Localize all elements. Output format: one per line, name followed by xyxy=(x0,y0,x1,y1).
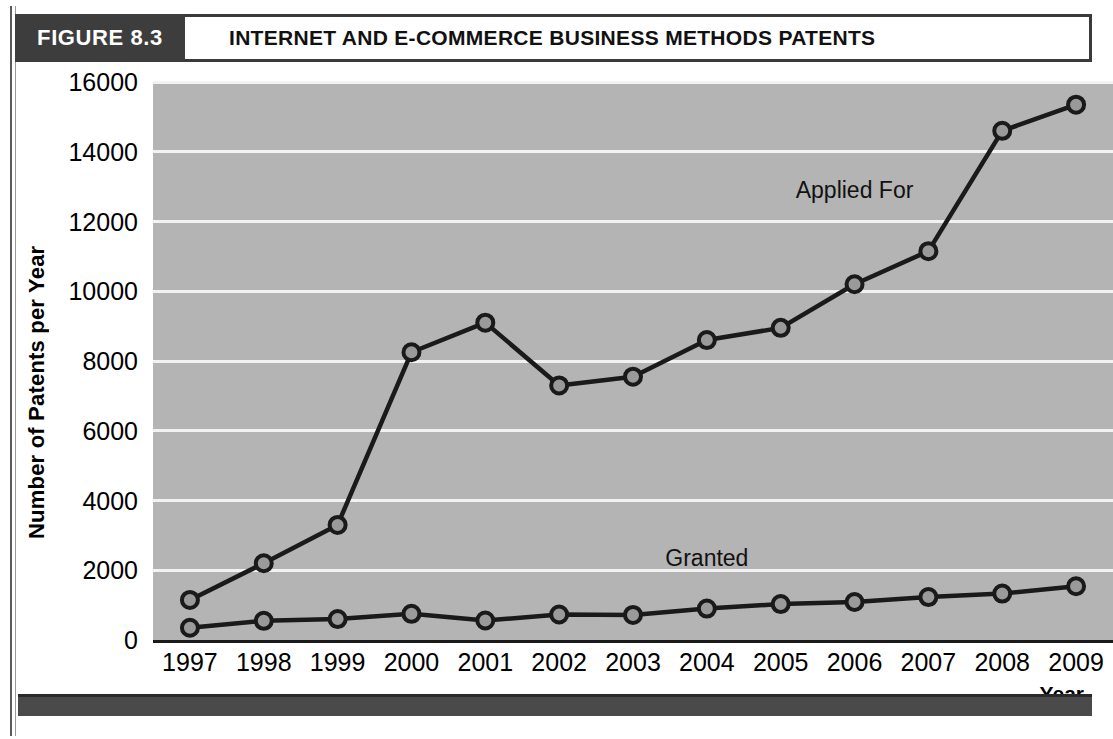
page-left-rule xyxy=(10,6,12,736)
data-point-marker xyxy=(403,606,419,622)
x-axis-tick-label: 2009 xyxy=(1048,648,1104,677)
data-point-marker xyxy=(699,601,715,617)
chart-container: Number of Patents per Year 0200040006000… xyxy=(18,62,1092,692)
footer-divider-bar xyxy=(18,697,1092,716)
figure-header: FIGURE 8.3 INTERNET AND E-COMMERCE BUSIN… xyxy=(18,14,1092,62)
y-axis-tick-label: 12000 xyxy=(68,207,138,236)
data-point-marker xyxy=(625,369,641,385)
data-point-marker xyxy=(994,123,1010,139)
data-point-marker xyxy=(847,276,863,292)
y-axis-tick-label: 14000 xyxy=(68,137,138,166)
series-layer xyxy=(153,82,1113,640)
data-point-marker xyxy=(477,315,493,331)
y-axis-tick-label: 2000 xyxy=(82,556,138,585)
figure-number-badge: FIGURE 8.3 xyxy=(15,14,185,62)
data-point-marker xyxy=(920,589,936,605)
data-point-marker xyxy=(182,592,198,608)
y-axis-tick-label: 10000 xyxy=(68,277,138,306)
y-axis-tick-label: 6000 xyxy=(82,416,138,445)
data-point-marker xyxy=(403,344,419,360)
plot-area: Applied ForGranted xyxy=(153,82,1113,643)
data-point-marker xyxy=(1068,97,1084,113)
data-point-marker xyxy=(330,611,346,627)
y-axis-tick-label: 4000 xyxy=(82,486,138,515)
x-axis-tick-label: 1997 xyxy=(162,648,218,677)
x-axis-tick-label: 2007 xyxy=(901,648,957,677)
data-point-marker xyxy=(256,555,272,571)
x-axis-tick-label: 2004 xyxy=(679,648,735,677)
figure-title: INTERNET AND E-COMMERCE BUSINESS METHODS… xyxy=(185,17,1089,59)
y-axis-title: Number of Patents per Year xyxy=(24,192,50,592)
data-point-marker xyxy=(625,607,641,623)
data-point-marker xyxy=(773,320,789,336)
data-point-marker xyxy=(920,243,936,259)
data-point-marker xyxy=(994,586,1010,602)
data-point-marker xyxy=(773,596,789,612)
data-point-marker xyxy=(551,607,567,623)
page-left-rule-secondary xyxy=(15,6,16,736)
data-point-marker xyxy=(330,517,346,533)
data-point-marker xyxy=(699,332,715,348)
x-axis-tick-label: 1999 xyxy=(310,648,366,677)
x-axis-tick-label: 2006 xyxy=(827,648,883,677)
y-axis-tick-labels: 0200040006000800010000120001400016000 xyxy=(52,62,144,692)
x-axis-tick-label: 2008 xyxy=(974,648,1030,677)
x-axis-tick-labels: 1997199819992000200120022003200420052006… xyxy=(153,648,1113,682)
x-axis-tick-label: 2005 xyxy=(753,648,809,677)
data-point-marker xyxy=(847,594,863,610)
y-axis-tick-label: 16000 xyxy=(68,68,138,97)
x-axis-tick-label: 2001 xyxy=(457,648,513,677)
series-label: Granted xyxy=(665,545,748,572)
series-label: Applied For xyxy=(796,177,914,204)
y-axis-tick-label: 0 xyxy=(124,626,138,655)
x-axis-tick-label: 1998 xyxy=(236,648,292,677)
data-point-marker xyxy=(477,612,493,628)
series-line xyxy=(190,105,1076,600)
x-axis-tick-label: 2000 xyxy=(384,648,440,677)
data-point-marker xyxy=(182,620,198,636)
y-axis-tick-label: 8000 xyxy=(82,347,138,376)
data-point-marker xyxy=(551,377,567,393)
data-point-marker xyxy=(1068,578,1084,594)
x-axis-tick-label: 2002 xyxy=(531,648,587,677)
x-axis-tick-label: 2003 xyxy=(605,648,661,677)
data-point-marker xyxy=(256,613,272,629)
